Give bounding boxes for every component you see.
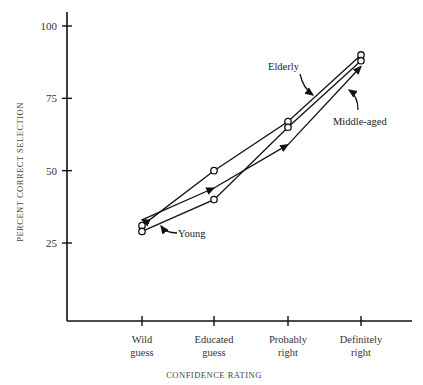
x-tick-label: right (278, 347, 298, 358)
y-tick-label: 25 (46, 237, 58, 249)
x-tick-label: Probably (269, 334, 308, 345)
y-axis-title: PERCENT CORRECT SELECTION (15, 102, 25, 242)
series-label-middle-aged: Middle-aged (333, 116, 387, 127)
series-lines (139, 52, 364, 235)
series-label-young: Young (178, 228, 206, 239)
pointer-arrow-icon (161, 226, 177, 233)
data-point (211, 167, 217, 173)
x-tick-label: guess (130, 347, 153, 358)
annotations: ElderlyMiddle-agedYoung (161, 61, 387, 239)
y-tick-label: 75 (46, 92, 58, 104)
series-label-elderly: Elderly (268, 61, 300, 72)
y-tick-label: 50 (46, 165, 58, 177)
x-tick-label: right (351, 347, 371, 358)
x-tick-label: Definitely (340, 334, 383, 345)
x-tick-label: Educated (194, 334, 234, 345)
pointer-arrow-icon (300, 74, 313, 95)
data-point (139, 228, 145, 234)
line-chart: 255075100WildguessEducatedguessProbablyr… (0, 0, 423, 385)
data-point (285, 124, 291, 130)
data-point (358, 58, 364, 64)
pointer-arrow-icon (349, 90, 358, 110)
series-line-elderly (142, 55, 361, 226)
series-segment-middle-aged (288, 67, 361, 145)
x-axis-title: CONFIDENCE RATING (166, 370, 262, 380)
y-tick-label: 100 (41, 20, 58, 32)
data-point (211, 196, 217, 202)
x-tick-label: guess (202, 347, 225, 358)
x-tick-label: Wild (132, 334, 153, 345)
series-segment-middle-aged (214, 145, 288, 188)
